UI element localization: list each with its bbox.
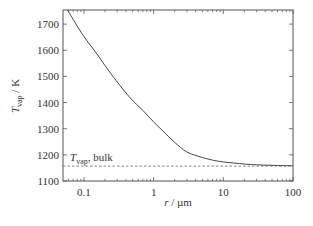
series-group xyxy=(63,10,293,166)
y-axis-label-unit: K xyxy=(9,79,21,87)
x-axis-label: r / µm xyxy=(164,196,192,208)
y-tick-label: 1400 xyxy=(37,97,60,109)
y-tick-label: 1200 xyxy=(37,149,60,161)
y-axis-label: Tvap / K xyxy=(9,79,24,113)
y-tick-label: 1500 xyxy=(37,70,60,82)
x-axis-label-unit: µm xyxy=(177,196,192,208)
chart: 11001200130014001500160017000.1110100 r … xyxy=(0,0,313,226)
y-axis-label-sep: / xyxy=(9,87,21,96)
bulk-annotation-subscript: vap xyxy=(76,157,88,166)
bulk-annotation-rest: , bulk xyxy=(88,151,114,163)
y-tick-label: 1600 xyxy=(37,44,60,56)
x-tick-label: 1 xyxy=(151,186,157,198)
y-tick-label: 1300 xyxy=(37,123,60,135)
x-axis-label-sep: / xyxy=(168,196,177,208)
y-tick-label: 1100 xyxy=(37,175,59,187)
series-line-tvap xyxy=(68,10,294,166)
x-tick-label: 10 xyxy=(218,186,230,198)
tick-labels: 11001200130014001500160017000.1110100 xyxy=(37,18,302,198)
bulk-annotation: Tvap, bulk xyxy=(70,151,113,166)
y-tick-label: 1700 xyxy=(37,18,60,30)
x-tick-label: 100 xyxy=(285,186,302,198)
y-axis-label-subscript: vap xyxy=(15,95,24,107)
x-tick-label: 0.1 xyxy=(77,186,91,198)
